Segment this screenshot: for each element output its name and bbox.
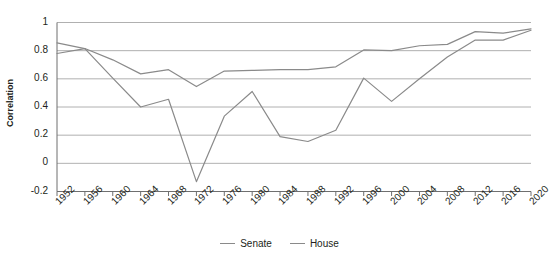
legend-label-house: House: [310, 238, 339, 249]
line-chart: Correlation -0.200.20.40.60.81 195219561…: [0, 0, 559, 261]
chart-plot-area: [0, 0, 559, 261]
y-axis-title: Correlation: [5, 71, 15, 135]
legend-swatch-senate: [220, 243, 235, 244]
y-axis-tick-label: 0.6: [22, 72, 48, 83]
y-axis-tick-label: 0.8: [22, 44, 48, 55]
y-axis-tick-label: 0.4: [22, 100, 48, 111]
y-axis-tick-label: -0.2: [22, 185, 48, 196]
legend-label-senate: Senate: [240, 238, 272, 249]
legend-item-senate: Senate: [220, 238, 272, 249]
series-line-senate: [57, 29, 531, 87]
chart-legend: Senate House: [0, 238, 559, 249]
y-axis-tick-label: 0.2: [22, 128, 48, 139]
y-axis-tick-label: 1: [22, 16, 48, 27]
legend-item-house: House: [290, 238, 339, 249]
y-axis-tick-label: 0: [22, 156, 48, 167]
series-line-house: [57, 30, 531, 181]
legend-swatch-house: [290, 243, 305, 244]
